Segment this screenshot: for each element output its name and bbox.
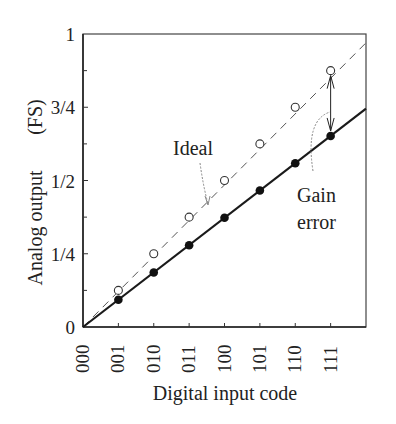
x-tick-label-group: 000 <box>72 345 93 374</box>
actual-point-filled-circle <box>149 268 158 277</box>
gain-label-line2: error <box>297 211 336 233</box>
y-axis-unit: (FS) <box>24 99 47 135</box>
y-tick-label: 1/4 <box>51 244 76 265</box>
actual-point-filled-circle <box>256 186 265 195</box>
x-tick-label-group: 011 <box>178 345 199 373</box>
chart-svg: 01/41/23/41 000001010011100101110111 Ide… <box>0 0 396 424</box>
x-tick-label-group: 101 <box>249 345 270 374</box>
actual-point-filled-circle <box>326 132 335 141</box>
x-tick-label: 100 <box>214 345 235 374</box>
x-axis-ticks: 000001010011100101110111 <box>72 323 341 373</box>
ideal-point-open-circle <box>114 286 122 294</box>
y-axis-title-group: Analog output (FS) <box>24 99 47 285</box>
ideal-point-open-circle <box>185 213 193 221</box>
x-tick-label: 011 <box>178 345 199 373</box>
x-tick-label: 001 <box>107 345 128 374</box>
x-tick-label-group: 110 <box>284 345 305 373</box>
ideal-point-open-circle <box>150 250 158 258</box>
x-tick-label-group: 010 <box>143 345 164 374</box>
x-tick-label: 101 <box>249 345 270 374</box>
gain-error-double-arrow-icon <box>327 76 334 131</box>
x-tick-label: 111 <box>320 346 341 373</box>
x-tick-label-group: 111 <box>320 346 341 373</box>
y-tick-label: 1 <box>66 24 76 45</box>
x-tick-label-group: 100 <box>214 345 235 374</box>
gain-error-leader-line <box>311 112 330 171</box>
ideal-point-open-circle <box>256 140 264 148</box>
x-tick-label: 110 <box>284 345 305 373</box>
x-tick-label: 000 <box>72 345 93 374</box>
y-tick-label: 0 <box>66 317 76 338</box>
actual-point-filled-circle <box>220 213 229 222</box>
actual-point-filled-circle <box>114 295 123 304</box>
actual-point-filled-circle <box>185 241 194 250</box>
ideal-point-open-circle <box>327 67 335 75</box>
y-tick-label: 1/2 <box>51 171 75 192</box>
ideal-point-open-circle <box>221 177 229 185</box>
y-axis-title: Analog output <box>24 170 47 285</box>
gain-label-line1: Gain <box>297 184 336 206</box>
ideal-label: Ideal <box>173 137 213 159</box>
y-tick-label: 3/4 <box>51 97 76 118</box>
ideal-point-open-circle <box>291 103 299 111</box>
ideal-leader-line <box>200 163 208 204</box>
x-axis-title: Digital input code <box>153 382 298 405</box>
chart-container: 01/41/23/41 000001010011100101110111 Ide… <box>0 0 396 424</box>
x-tick-label: 010 <box>143 345 164 374</box>
actual-point-filled-circle <box>291 159 300 168</box>
x-tick-label-group: 001 <box>107 345 128 374</box>
